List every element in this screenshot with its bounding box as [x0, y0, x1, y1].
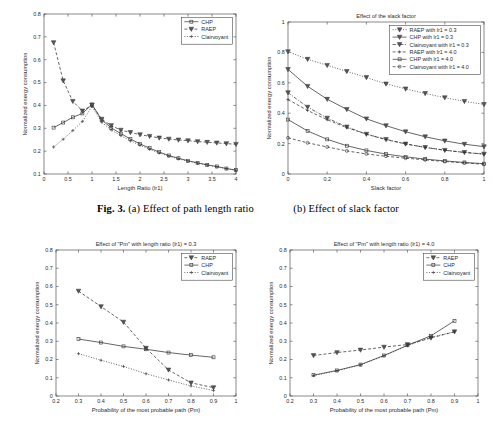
svg-text:1: 1 — [483, 176, 486, 182]
svg-text:0.3: 0.3 — [279, 338, 287, 344]
svg-text:0.7: 0.7 — [404, 398, 412, 404]
svg-text:0.3: 0.3 — [45, 338, 53, 344]
svg-text:0.3: 0.3 — [33, 125, 41, 131]
svg-text:3.5: 3.5 — [208, 176, 216, 182]
svg-text:0: 0 — [43, 176, 46, 182]
svg-text:1.5: 1.5 — [112, 176, 120, 182]
svg-text:0.4: 0.4 — [277, 110, 285, 116]
svg-text:0.6: 0.6 — [380, 398, 388, 404]
svg-text:CHP: CHP — [443, 262, 455, 268]
svg-text:CHP with lr1 = 0.3: CHP with lr1 = 0.3 — [410, 34, 454, 40]
svg-text:0: 0 — [50, 393, 53, 399]
svg-text:RAEP: RAEP — [201, 255, 216, 261]
svg-text:0.7: 0.7 — [45, 265, 53, 271]
svg-text:4: 4 — [235, 176, 238, 182]
svg-text:Probability of the most probab: Probability of the most probable path (P… — [92, 407, 201, 413]
svg-text:0.4: 0.4 — [45, 320, 53, 326]
svg-text:0.8: 0.8 — [33, 11, 41, 17]
svg-text:RAEP: RAEP — [201, 26, 216, 32]
chart-d-pm-lr-4-0: Effect of "Pm" with length ratio (lr1) =… — [256, 232, 488, 422]
svg-text:0.5: 0.5 — [64, 176, 72, 182]
svg-text:Probability of the most probab: Probability of the most probable path (P… — [330, 407, 439, 413]
svg-text:Clairvoyant: Clairvoyant — [201, 270, 228, 276]
figure-caption: Fig. 3. (a) Effect of path length ratio … — [0, 203, 496, 214]
svg-text:0.4: 0.4 — [97, 398, 105, 404]
svg-text:0.2: 0.2 — [279, 356, 287, 362]
svg-text:0.8: 0.8 — [45, 247, 53, 253]
svg-text:0: 0 — [287, 176, 290, 182]
svg-text:1: 1 — [282, 19, 285, 25]
svg-text:0.3: 0.3 — [75, 398, 83, 404]
svg-text:0.4: 0.4 — [333, 398, 341, 404]
svg-text:1: 1 — [235, 398, 238, 404]
svg-text:Slack factor: Slack factor — [371, 185, 401, 191]
svg-text:0: 0 — [284, 393, 287, 399]
svg-text:0.8: 0.8 — [441, 176, 449, 182]
svg-text:0.9: 0.9 — [210, 398, 218, 404]
svg-text:0.6: 0.6 — [277, 80, 285, 86]
svg-text:0.9: 0.9 — [451, 398, 459, 404]
svg-text:Clairvoyant: Clairvoyant — [201, 34, 228, 40]
figure-number: Fig. 3. — [97, 203, 125, 214]
svg-text:0.5: 0.5 — [33, 79, 41, 85]
svg-text:0.6: 0.6 — [45, 283, 53, 289]
caption-part-a: (a) Effect of path length ratio — [128, 203, 254, 214]
svg-text:0: 0 — [282, 171, 285, 177]
svg-text:0.2: 0.2 — [52, 398, 60, 404]
svg-text:RAEP with lr1 = 4.0: RAEP with lr1 = 4.0 — [410, 49, 457, 55]
svg-text:Effect of the slack factor: Effect of the slack factor — [356, 13, 416, 19]
svg-text:0.5: 0.5 — [120, 398, 128, 404]
svg-text:0.6: 0.6 — [279, 283, 287, 289]
svg-text:Clairvoyant: Clairvoyant — [443, 270, 470, 276]
chart-a-path-length-ratio: 00.511.522.533.540.10.20.30.40.50.60.70.… — [8, 4, 244, 200]
svg-text:Normalized energy consumption: Normalized energy consumption — [266, 56, 272, 139]
svg-text:Normalized energy consumption: Normalized energy consumption — [22, 52, 28, 135]
svg-text:RAEP with lr1 = 0.3: RAEP with lr1 = 0.3 — [410, 27, 457, 33]
svg-text:CHP: CHP — [201, 19, 213, 25]
chart-c-pm-lr-0-3: Effect of "Pm" with length ratio (lr1) =… — [22, 232, 244, 422]
svg-text:0.8: 0.8 — [187, 398, 195, 404]
svg-text:0.1: 0.1 — [45, 375, 53, 381]
svg-text:0.6: 0.6 — [33, 57, 41, 63]
svg-text:3: 3 — [187, 176, 190, 182]
svg-text:1: 1 — [477, 398, 480, 404]
svg-text:0.4: 0.4 — [33, 102, 41, 108]
svg-text:0.5: 0.5 — [357, 398, 365, 404]
svg-text:0.1: 0.1 — [279, 375, 287, 381]
svg-text:0.4: 0.4 — [363, 176, 371, 182]
svg-text:Normalized energy consumption: Normalized energy consumption — [34, 281, 40, 364]
svg-text:0.8: 0.8 — [277, 49, 285, 55]
svg-text:Length Ratio (lr1): Length Ratio (lr1) — [118, 185, 163, 191]
svg-text:0.5: 0.5 — [45, 302, 53, 308]
svg-text:0.7: 0.7 — [279, 265, 287, 271]
chart-b-slack-factor: Effect of the slack factor00.20.40.60.81… — [252, 4, 492, 200]
svg-text:0.2: 0.2 — [286, 398, 294, 404]
svg-text:0.5: 0.5 — [279, 302, 287, 308]
svg-text:2.5: 2.5 — [160, 176, 168, 182]
svg-text:2: 2 — [139, 176, 142, 182]
caption-part-b: (b) Effect of slack factor — [293, 203, 399, 214]
svg-text:1: 1 — [91, 176, 94, 182]
svg-text:Effect of "Pm" with length rat: Effect of "Pm" with length ratio (lr1) =… — [96, 241, 197, 247]
svg-text:Normalized energy consumption: Normalized energy consumption — [268, 281, 274, 364]
svg-text:0.1: 0.1 — [33, 171, 41, 177]
svg-text:0.7: 0.7 — [165, 398, 173, 404]
svg-text:0.6: 0.6 — [402, 176, 410, 182]
svg-text:0.4: 0.4 — [279, 320, 287, 326]
svg-text:0.2: 0.2 — [323, 176, 331, 182]
svg-text:0.2: 0.2 — [45, 356, 53, 362]
figure-page: 00.511.522.533.540.10.20.30.40.50.60.70.… — [0, 0, 496, 429]
svg-text:Clairvoyant with lr1 = 4.0: Clairvoyant with lr1 = 4.0 — [410, 64, 469, 70]
svg-text:0.8: 0.8 — [279, 247, 287, 253]
svg-text:0.6: 0.6 — [142, 398, 150, 404]
svg-text:Clairvoyant with lr1 = 0.3: Clairvoyant with lr1 = 0.3 — [410, 42, 469, 48]
svg-text:0.2: 0.2 — [33, 148, 41, 154]
svg-text:0.8: 0.8 — [427, 398, 435, 404]
svg-text:0.7: 0.7 — [33, 34, 41, 40]
svg-text:0.3: 0.3 — [310, 398, 318, 404]
svg-text:Effect of "Pm" with length rat: Effect of "Pm" with length ratio (lr1) =… — [334, 241, 435, 247]
svg-text:CHP with lr1 = 4.0: CHP with lr1 = 4.0 — [410, 56, 454, 62]
svg-text:0.2: 0.2 — [277, 141, 285, 147]
svg-text:CHP: CHP — [201, 262, 213, 268]
svg-text:RAEP: RAEP — [443, 255, 458, 261]
